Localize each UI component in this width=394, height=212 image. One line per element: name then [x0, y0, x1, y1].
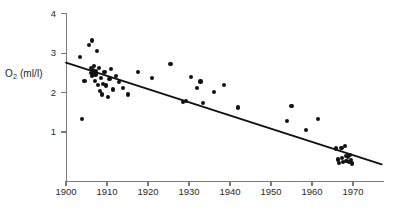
y-axis-tick-label: 4: [38, 9, 56, 19]
scatter-point: [102, 70, 106, 74]
scatter-point: [289, 104, 293, 108]
scatter-point: [96, 83, 100, 87]
scatter-point: [236, 105, 240, 109]
scatter-point: [80, 117, 84, 121]
x-axis-tick-label: 1970: [336, 187, 370, 197]
scatter-point: [343, 144, 347, 148]
y-axis-tick-label-wrap: 2: [38, 88, 56, 98]
scatter-point: [111, 87, 115, 91]
scatter-point: [195, 86, 199, 90]
x-axis-tick-label: 1940: [213, 187, 247, 197]
y-axis-line: [66, 13, 67, 181]
x-axis-tick-label: 1910: [90, 187, 124, 197]
x-axis-tick-label: 1960: [295, 187, 329, 197]
y-axis-tick: [61, 131, 67, 132]
scatter-point: [334, 146, 338, 150]
y-axis-tick: [61, 92, 67, 93]
scatter-point: [222, 83, 226, 87]
scatter-point: [304, 128, 308, 132]
scatter-point: [168, 62, 172, 66]
scatter-point: [136, 70, 140, 74]
x-axis-tick-label: 1950: [254, 187, 288, 197]
y-axis-title-base: O: [5, 68, 13, 79]
scatter-point: [150, 76, 154, 80]
scatter-point: [104, 83, 108, 87]
y-axis-tick: [61, 13, 67, 14]
scatter-point: [92, 64, 96, 68]
scatter-point: [95, 49, 99, 53]
scatter-point: [126, 92, 130, 96]
y-axis-title-subscript: 2: [13, 72, 17, 81]
scatter-point: [87, 43, 91, 47]
scatter-point: [90, 38, 94, 42]
scatter-point: [285, 119, 289, 123]
y-axis-tick-label-wrap: 3: [38, 48, 56, 58]
scatter-point: [97, 66, 101, 70]
y-axis-tick: [61, 53, 67, 54]
x-axis-line: [66, 181, 384, 182]
x-axis-tick-label: 1920: [131, 187, 165, 197]
scatter-point: [350, 161, 354, 165]
x-axis-tick-label: 1930: [172, 187, 206, 197]
scatter-point: [100, 92, 104, 96]
scatter-point: [212, 90, 216, 94]
scatter-point: [348, 153, 352, 157]
scatter-point: [109, 67, 113, 71]
scatter-point: [106, 95, 110, 99]
scatter-point: [198, 79, 202, 83]
scatter-point: [82, 79, 86, 83]
y-axis-tick-label-wrap: 1: [38, 127, 56, 137]
y-axis-title: O2 (ml/l): [5, 68, 43, 79]
scatter-point: [117, 80, 121, 84]
x-axis-tick-label: 1900: [49, 187, 83, 197]
scatter-point: [201, 101, 205, 105]
y-axis-tick-label: 1: [38, 127, 56, 137]
oxygen-decline-scatter-chart: O2 (ml/l) 1234 1900191019201930194019501…: [0, 0, 394, 212]
y-axis-tick-label: 3: [38, 48, 56, 58]
scatter-point: [184, 99, 188, 103]
scatter-point: [189, 75, 193, 79]
scatter-point: [78, 55, 82, 59]
scatter-point: [114, 74, 118, 78]
y-axis-tick-label-wrap: 4: [38, 9, 56, 19]
scatter-point: [99, 76, 103, 80]
scatter-point: [121, 86, 125, 90]
y-axis-tick-label: 2: [38, 88, 56, 98]
scatter-point: [316, 117, 320, 121]
scatter-point: [107, 77, 111, 81]
y-axis-title-unit: (ml/l): [17, 68, 43, 79]
